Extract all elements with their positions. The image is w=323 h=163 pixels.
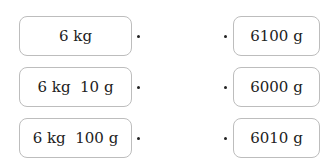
left-connector-dot-2[interactable] (137, 86, 140, 89)
right-item-label: 6010 g (250, 129, 303, 147)
left-item-label: 6 kg 10 g (38, 78, 114, 96)
right-item-label: 6100 g (250, 27, 303, 45)
left-item-label: 6 kg 100 g (33, 129, 119, 147)
left-item-2[interactable]: 6 kg 10 g (19, 67, 132, 107)
right-connector-dot-1[interactable] (224, 35, 227, 38)
right-item-label: 6000 g (250, 78, 303, 96)
right-connector-dot-3[interactable] (224, 137, 227, 140)
right-item-2[interactable]: 6000 g (233, 67, 320, 107)
right-connector-dot-2[interactable] (224, 86, 227, 89)
left-item-label: 6 kg (59, 27, 92, 45)
left-item-1[interactable]: 6 kg (19, 16, 132, 56)
left-item-3[interactable]: 6 kg 100 g (19, 118, 132, 158)
right-item-3[interactable]: 6010 g (233, 118, 320, 158)
left-connector-dot-3[interactable] (137, 137, 140, 140)
left-connector-dot-1[interactable] (137, 35, 140, 38)
right-item-1[interactable]: 6100 g (233, 16, 320, 56)
